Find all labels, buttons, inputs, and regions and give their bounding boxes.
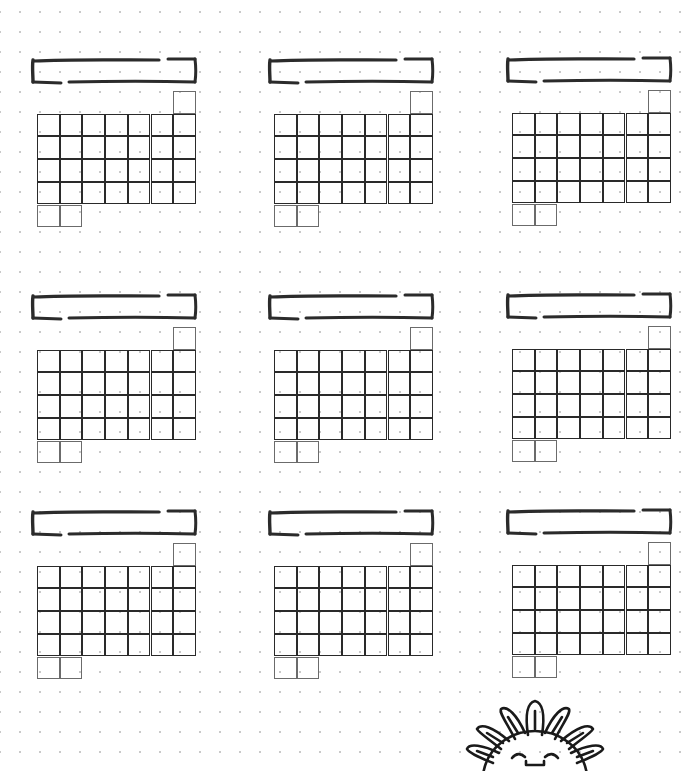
day-cell[interactable] (535, 113, 558, 136)
day-cell[interactable] (105, 372, 128, 395)
day-cell[interactable] (105, 114, 128, 137)
day-cell[interactable] (173, 566, 196, 589)
day-cell[interactable] (82, 611, 105, 634)
day-cell[interactable] (37, 182, 60, 205)
day-cell[interactable] (626, 181, 649, 204)
day-cell[interactable] (173, 588, 196, 611)
day-cell[interactable] (319, 588, 342, 611)
day-cell[interactable] (274, 588, 297, 611)
day-cell[interactable] (410, 611, 433, 634)
day-cell[interactable] (82, 114, 105, 137)
day-cell[interactable] (60, 159, 83, 182)
day-cell[interactable] (365, 418, 388, 441)
day-cell[interactable] (37, 566, 60, 589)
day-cell[interactable] (342, 634, 365, 657)
day-cell[interactable] (626, 135, 649, 158)
day-cell[interactable] (297, 441, 320, 464)
day-cell[interactable] (297, 136, 320, 159)
day-cell[interactable] (410, 159, 433, 182)
month-title-box[interactable] (506, 508, 672, 535)
day-cell[interactable] (319, 611, 342, 634)
day-cell[interactable] (297, 114, 320, 137)
day-cell[interactable] (512, 440, 535, 463)
day-cell[interactable] (60, 114, 83, 137)
day-cell[interactable] (626, 113, 649, 136)
day-cell[interactable] (342, 588, 365, 611)
day-cell[interactable] (60, 205, 83, 228)
day-cell[interactable] (173, 634, 196, 657)
day-cell[interactable] (512, 610, 535, 633)
day-cell[interactable] (319, 395, 342, 418)
day-cell[interactable] (37, 136, 60, 159)
day-cell[interactable] (128, 418, 151, 441)
day-cell[interactable] (648, 587, 671, 610)
day-cell[interactable] (274, 350, 297, 373)
month-title-box[interactable] (31, 57, 197, 84)
day-cell[interactable] (603, 610, 626, 633)
day-cell[interactable] (557, 633, 580, 656)
day-cell[interactable] (60, 136, 83, 159)
day-cell[interactable] (151, 634, 174, 657)
day-cell[interactable] (37, 114, 60, 137)
day-cell[interactable] (128, 395, 151, 418)
day-cell[interactable] (105, 136, 128, 159)
day-cell[interactable] (626, 349, 649, 372)
day-cell[interactable] (274, 395, 297, 418)
day-cell[interactable] (82, 372, 105, 395)
day-cell[interactable] (82, 136, 105, 159)
day-cell[interactable] (557, 158, 580, 181)
day-cell[interactable] (274, 205, 297, 228)
day-cell[interactable] (297, 159, 320, 182)
day-cell[interactable] (410, 327, 433, 350)
day-cell[interactable] (319, 634, 342, 657)
day-cell[interactable] (626, 371, 649, 394)
day-cell[interactable] (60, 441, 83, 464)
day-cell[interactable] (410, 543, 433, 566)
month-title-box[interactable] (268, 57, 434, 84)
day-cell[interactable] (388, 372, 411, 395)
day-cell[interactable] (603, 113, 626, 136)
day-cell[interactable] (512, 135, 535, 158)
day-cell[interactable] (151, 350, 174, 373)
day-cell[interactable] (580, 135, 603, 158)
day-cell[interactable] (342, 418, 365, 441)
day-cell[interactable] (535, 417, 558, 440)
day-cell[interactable] (128, 136, 151, 159)
day-cell[interactable] (603, 371, 626, 394)
day-cell[interactable] (151, 159, 174, 182)
day-cell[interactable] (512, 656, 535, 679)
day-cell[interactable] (410, 114, 433, 137)
day-cell[interactable] (297, 372, 320, 395)
day-cell[interactable] (274, 657, 297, 680)
day-cell[interactable] (580, 371, 603, 394)
day-cell[interactable] (512, 371, 535, 394)
day-cell[interactable] (365, 350, 388, 373)
day-cell[interactable] (626, 158, 649, 181)
day-cell[interactable] (274, 182, 297, 205)
day-cell[interactable] (105, 611, 128, 634)
day-cell[interactable] (173, 159, 196, 182)
day-cell[interactable] (365, 372, 388, 395)
day-cell[interactable] (410, 350, 433, 373)
day-cell[interactable] (319, 114, 342, 137)
day-cell[interactable] (648, 394, 671, 417)
day-cell[interactable] (128, 114, 151, 137)
day-cell[interactable] (535, 181, 558, 204)
month-title-box[interactable] (506, 292, 672, 319)
day-cell[interactable] (105, 634, 128, 657)
day-cell[interactable] (173, 543, 196, 566)
day-cell[interactable] (626, 417, 649, 440)
day-cell[interactable] (535, 440, 558, 463)
month-title-box[interactable] (268, 293, 434, 320)
day-cell[interactable] (603, 135, 626, 158)
day-cell[interactable] (365, 566, 388, 589)
day-cell[interactable] (151, 136, 174, 159)
day-cell[interactable] (274, 566, 297, 589)
day-cell[interactable] (388, 159, 411, 182)
month-title-box[interactable] (31, 509, 197, 536)
day-cell[interactable] (512, 204, 535, 227)
day-cell[interactable] (365, 395, 388, 418)
day-cell[interactable] (603, 587, 626, 610)
day-cell[interactable] (388, 136, 411, 159)
day-cell[interactable] (128, 588, 151, 611)
